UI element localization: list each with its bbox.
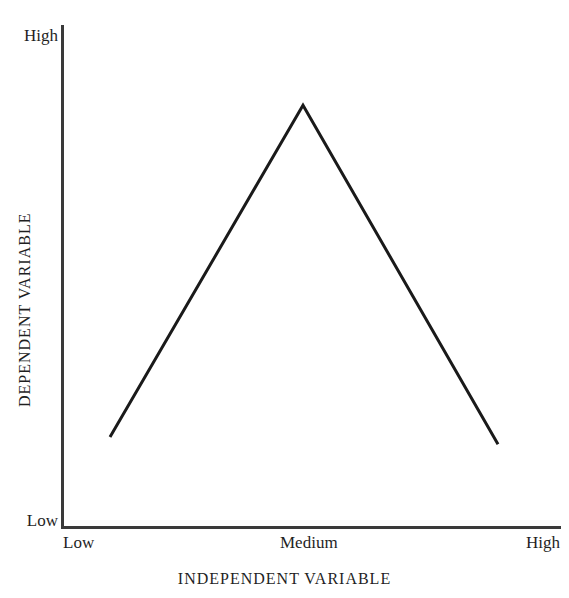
x-axis-tick-high: High: [526, 534, 560, 551]
x-axis-title: INDEPENDENT VARIABLE: [0, 570, 569, 588]
y-axis-title: DEPENDENT VARIABLE: [13, 165, 37, 455]
y-axis-line: [61, 25, 64, 529]
x-axis-tick-medium: Medium: [280, 534, 338, 551]
y-axis-tick-low: Low: [27, 512, 58, 529]
data-series-line: [0, 0, 569, 598]
y-axis-tick-high: High: [24, 27, 58, 44]
x-axis-line: [61, 526, 561, 529]
x-axis-tick-low: Low: [63, 534, 94, 551]
chart-figure: High Low Low Medium High DEPENDENT VARIA…: [0, 0, 569, 598]
